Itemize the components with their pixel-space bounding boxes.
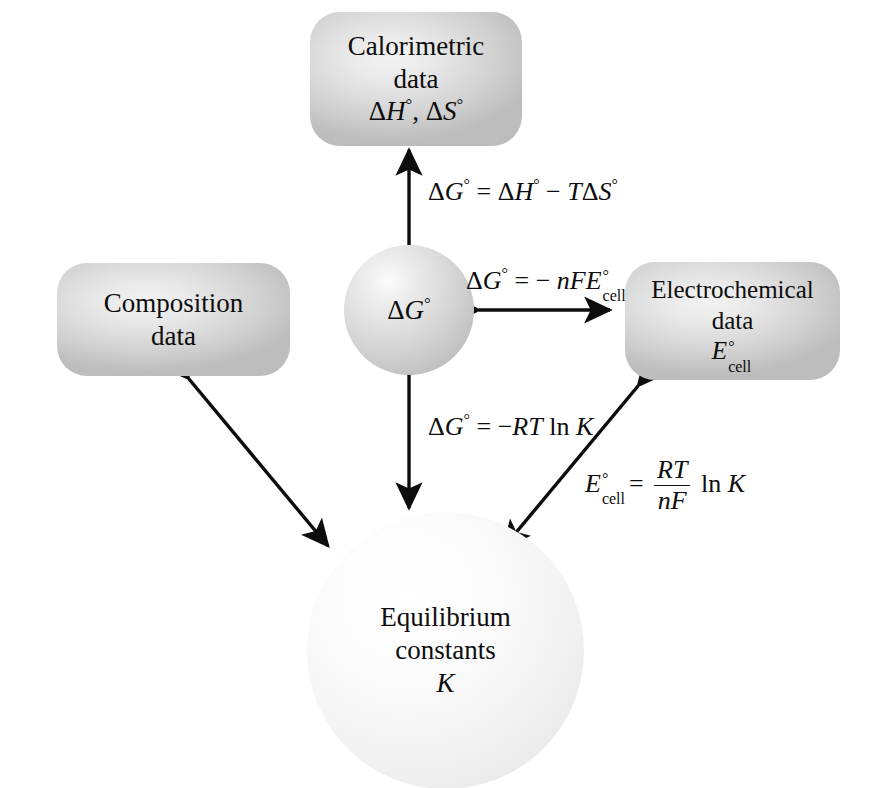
equation-nernst-free-energy: ΔG° = − nFE°cell bbox=[466, 266, 628, 296]
composition-line-2: data bbox=[104, 320, 244, 353]
node-electrochemical-data[interactable]: Electrochemical data E°cell bbox=[625, 262, 840, 380]
equilibrium-symbol: K bbox=[380, 667, 511, 700]
node-calorimetric-data[interactable]: Calorimetric data ΔH°, ΔS° bbox=[310, 12, 522, 146]
node-free-energy[interactable]: ΔG° bbox=[344, 245, 474, 375]
equation-cell-potential-k: E°cell = RT nF ln K bbox=[585, 456, 745, 517]
calorimetric-symbols: ΔH°, ΔS° bbox=[348, 95, 484, 128]
electrochemical-symbol: E°cell bbox=[651, 336, 813, 367]
calorimetric-line-2: data bbox=[348, 63, 484, 96]
calorimetric-line-1: Calorimetric bbox=[348, 30, 484, 63]
equilibrium-line-1: Equilibrium bbox=[380, 601, 511, 634]
diagram-canvas: Calorimetric data ΔH°, ΔS° Composition d… bbox=[0, 0, 886, 788]
node-composition-data[interactable]: Composition data bbox=[57, 263, 290, 376]
equation-gibbs-helmholtz: ΔG° = ΔH° − TΔS° bbox=[428, 177, 618, 207]
electrochemical-line-1: Electrochemical bbox=[651, 275, 813, 306]
equation-free-energy-k: ΔG° = −RT ln K bbox=[428, 412, 593, 442]
equilibrium-line-2: constants bbox=[380, 634, 511, 667]
composition-line-1: Composition bbox=[104, 287, 244, 320]
free-energy-symbol: ΔG° bbox=[387, 294, 431, 327]
arrow-composition-equilibrium bbox=[189, 379, 328, 546]
node-equilibrium-constants[interactable]: Equilibrium constants K bbox=[307, 512, 584, 788]
electrochemical-line-2: data bbox=[651, 306, 813, 337]
